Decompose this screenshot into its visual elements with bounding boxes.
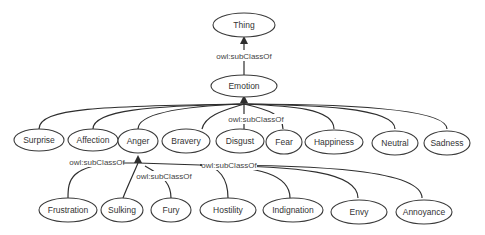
node-frustration[interactable]: Frustration [39,198,97,222]
node-affection[interactable]: Affection [68,129,118,151]
node-emotion[interactable]: Emotion [211,75,277,97]
edge-label: owl:subClassOf [136,172,192,181]
node-happiness[interactable]: Happiness [305,130,363,154]
node-label: Frustration [48,205,89,215]
node-disgust[interactable]: Disgust [216,129,264,153]
node-label: Bravery [171,136,201,146]
edge-label: owl:subClassOf [201,161,257,170]
node-label: Fury [163,205,181,215]
node-indignation[interactable]: Indignation [263,198,323,222]
node-label: Emotion [228,81,259,91]
node-label: Happiness [314,137,354,147]
node-envy[interactable]: Envy [331,200,387,224]
node-bravery[interactable]: Bravery [162,129,210,153]
node-hostility[interactable]: Hostility [200,198,256,222]
node-label: Neutral [381,138,409,148]
node-annoyance[interactable]: Annoyance [396,200,452,224]
node-anger[interactable]: Anger [118,129,158,153]
node-sulking[interactable]: Sulking [101,198,143,222]
node-neutral[interactable]: Neutral [372,131,418,155]
node-label: Affection [77,135,110,145]
node-label: Sulking [108,205,136,215]
node-label: Fear [275,137,293,147]
ontology-diagram: owl:subClassOf owl:subClassOf owl:subCla… [0,0,485,235]
edge-label: owl:subClassOf [228,115,284,124]
edge-label: owl:subClassOf [69,158,125,167]
node-label: Indignation [272,205,314,215]
edge-emotion-thing: owl:subClassOf [214,38,274,77]
node-label: Annoyance [403,207,446,217]
node-label: Thing [233,20,255,30]
edge-label: owl:subClassOf [216,52,272,61]
node-fury[interactable]: Fury [151,198,191,222]
node-label: Disgust [226,136,255,146]
edges-anger-subclasses: owl:subClassOf owl:subClassOf owl:subCla… [68,157,422,198]
node-sadness[interactable]: Sadness [424,131,470,155]
node-label: Anger [127,136,150,146]
node-surprise[interactable]: Surprise [14,129,64,151]
edges-emotions-to-emotion: owl:subClassOf [39,97,447,129]
node-label: Sadness [430,138,463,148]
node-label: Surprise [23,135,55,145]
node-label: Hostility [213,205,244,215]
node-fear[interactable]: Fear [266,130,302,154]
node-thing[interactable]: Thing [213,13,275,37]
node-label: Envy [350,207,370,217]
